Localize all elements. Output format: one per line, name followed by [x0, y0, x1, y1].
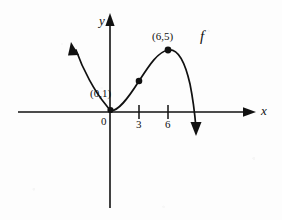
- point-6-5: [165, 47, 172, 54]
- point-label-0-1: (0,1): [90, 88, 111, 99]
- origin-label: 0: [101, 116, 107, 127]
- tick-label-3: 3: [136, 119, 142, 130]
- tick-label-6: 6: [165, 119, 171, 130]
- point-label-6-5: (6,5): [152, 31, 173, 42]
- x-axis-arrowhead: [243, 107, 256, 116]
- point-0-1: [107, 107, 113, 113]
- curve-arrowhead-right: [191, 122, 202, 136]
- x-axis: [18, 107, 256, 116]
- graph-canvas: [0, 0, 282, 220]
- y-axis-arrowhead: [105, 13, 114, 26]
- marked-points: [107, 47, 171, 114]
- graph-figure: y x f 0 3 6 (0,1) (6,5): [0, 0, 282, 220]
- function-label-f: f: [200, 29, 204, 44]
- function-curve-f: [68, 42, 202, 136]
- point-inflection: [136, 78, 143, 85]
- x-axis-label: x: [261, 104, 267, 117]
- curve-arrowhead-left: [68, 42, 79, 56]
- y-axis-label: y: [99, 14, 105, 27]
